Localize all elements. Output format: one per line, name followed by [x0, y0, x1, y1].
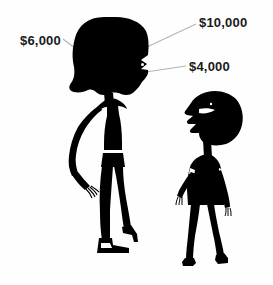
illustration-canvas: $10,000 $6,000 $4,000: [0, 0, 273, 285]
short-figure-shoe-left: [182, 258, 196, 266]
tall-figure-hips: [101, 153, 125, 167]
tall-figure-head: [69, 17, 148, 95]
tall-figure-belt: [103, 150, 123, 153]
callout-label-10000: $10,000: [199, 16, 247, 29]
callout-label-4000: $4,000: [189, 60, 230, 73]
tall-figure-eye-highlight: [141, 63, 144, 66]
short-figure-eye-highlight: [210, 103, 212, 105]
callout-label-6000: $6,000: [20, 34, 61, 47]
